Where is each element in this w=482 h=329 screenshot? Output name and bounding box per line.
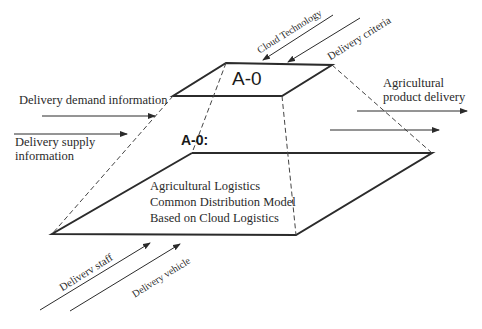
description-line-1: Agricultural Logistics [150,178,296,194]
input-label-supply-line-1: Delivery supply [15,135,95,149]
top-box-title: A-0 [232,68,262,90]
bottom-box-title: A-0: [181,132,208,148]
input-label-supply-line-2: information [15,149,95,163]
output-label-line-1: Agricultural [383,76,465,90]
mechanism-arrow-staff [40,243,150,310]
description-line-3: Based on Cloud Logistics [150,210,296,226]
input-label-demand: Delivery demand information [19,93,168,107]
output-label-line-2: product delivery [383,90,465,104]
output-label-product-delivery: Agricultural product delivery [383,76,465,104]
input-label-supply: Delivery supply information [15,135,95,163]
description-line-2: Common Distribution Model [150,194,296,210]
bottom-box-description: Agricultural Logistics Common Distributi… [150,178,296,226]
